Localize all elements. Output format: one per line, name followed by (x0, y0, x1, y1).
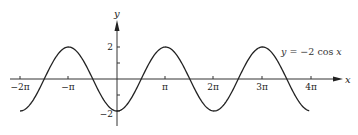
x-axis-arrow-icon (333, 77, 343, 82)
y-tick-label-neg-2: −2 (100, 109, 113, 119)
y-axis-arrow-icon (115, 20, 120, 31)
x-tick-label-2pi: 2π (207, 82, 219, 92)
x-tick-label-3pi: 3π (256, 82, 268, 92)
equation-label: y = −2 cos x (280, 46, 342, 57)
cosine-chart: x y −2π −π π 2π 3π 4π 2 −2 y = −2 cos x (0, 0, 358, 135)
x-tick-label-neg-pi: −π (61, 82, 75, 92)
x-tick-label-4pi: 4π (305, 82, 317, 92)
y-tick-label-2: 2 (107, 42, 113, 52)
x-tick-label-pi: π (162, 82, 168, 92)
x-tick-label-neg-2pi: −2π (10, 82, 29, 92)
x-axis-label: x (345, 74, 351, 85)
y-axis-label: y (113, 8, 120, 19)
